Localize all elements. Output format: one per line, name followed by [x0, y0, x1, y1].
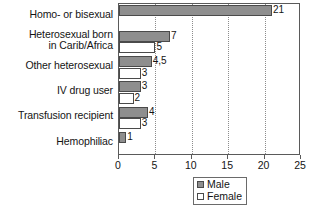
value-label-male-5: 1 [127, 132, 133, 142]
value-label-female-2: 3 [142, 68, 148, 78]
tick-label-10: 10 [185, 160, 197, 171]
plot-area [118, 3, 300, 155]
legend-swatch-male-icon [197, 181, 204, 188]
gridline-5 [155, 4, 156, 154]
category-label-2: Other heterosexual [25, 60, 113, 72]
tick-label-15: 15 [221, 160, 233, 171]
value-label-female-1: 5 [156, 42, 162, 52]
legend-item-female[interactable]: Female [197, 191, 242, 203]
category-label-5: Hemophiliac [56, 136, 113, 148]
bar-male-2 [119, 56, 152, 67]
gridline-20 [265, 4, 266, 154]
bar-female-4 [119, 118, 141, 129]
legend-label-male: Male [207, 179, 230, 191]
value-label-male-0: 21 [273, 5, 284, 15]
bar-female-3 [119, 93, 134, 104]
tick-label-20: 20 [258, 160, 270, 171]
value-label-male-4: 4 [149, 107, 155, 117]
category-label-3: IV drug user [57, 85, 113, 97]
bar-male-3 [119, 81, 141, 92]
tick-label-25: 25 [294, 160, 306, 171]
category-label-0: Homo- or bisexual [30, 9, 114, 21]
value-label-female-4: 3 [142, 118, 148, 128]
gridline-10 [192, 4, 193, 154]
bar-male-4 [119, 107, 148, 118]
bar-male-0 [119, 5, 272, 16]
value-label-male-1: 7 [171, 31, 177, 41]
legend-label-female: Female [207, 191, 242, 203]
bar-male-1 [119, 31, 170, 42]
tick-label-5: 5 [151, 160, 157, 171]
category-label-1: Heterosexual born in Carib/Africa [29, 29, 113, 52]
tick-label-0: 0 [115, 160, 121, 171]
value-label-female-3: 2 [135, 93, 141, 103]
legend-swatch-female-icon [197, 193, 204, 200]
bar-male-5 [119, 132, 126, 143]
value-label-male-2: 4,5 [153, 56, 167, 66]
bar-female-1 [119, 42, 155, 53]
bar-chart: Homo- or bisexualHeterosexual born in Ca… [0, 0, 311, 210]
gridline-15 [228, 4, 229, 154]
legend-item-male[interactable]: Male [197, 179, 242, 191]
bar-female-2 [119, 68, 141, 79]
category-label-4: Transfusion recipient [18, 110, 113, 122]
legend: MaleFemale [193, 177, 247, 205]
value-label-male-3: 3 [142, 81, 148, 91]
